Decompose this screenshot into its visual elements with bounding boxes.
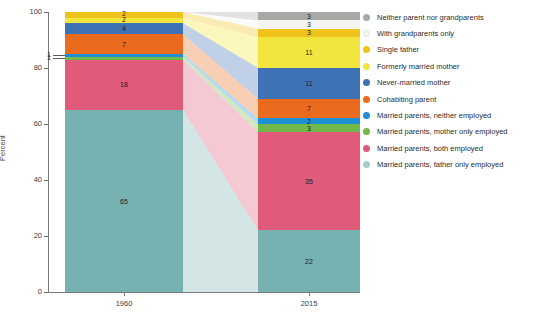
bar-segment[interactable]: 2 [65, 18, 183, 24]
y-tick-label: 60 [34, 119, 42, 128]
bar-segment[interactable]: 4 [65, 23, 183, 34]
bar-segment[interactable]: 65 [65, 110, 183, 292]
legend-swatch-icon [363, 63, 370, 70]
legend-item-label: Formerly married mother [377, 62, 460, 71]
legend-swatch-icon [363, 46, 370, 53]
flow-ribbon [183, 34, 258, 118]
y-tick-label: 100 [29, 7, 42, 16]
legend-item[interactable]: Single father [363, 42, 547, 58]
y-tick-mark [44, 68, 48, 69]
bar-2015[interactable]: 22353271111333 [258, 12, 360, 292]
x-tick-mark [309, 292, 310, 296]
bar-segment[interactable]: 3 [258, 12, 360, 20]
bar-segment-label: 3 [307, 13, 311, 20]
flow-ribbon [183, 57, 258, 133]
legend-swatch-icon [363, 30, 370, 37]
bar-segment-label: 22 [305, 258, 313, 265]
flow-ribbon [183, 60, 258, 231]
x-axis-line [48, 292, 360, 293]
x-tick-mark [124, 292, 125, 296]
bar-segment-label: 3 [307, 21, 311, 28]
legend-item-label: Single father [377, 45, 419, 54]
legend-swatch-icon [363, 145, 370, 152]
flow-ribbon [183, 54, 258, 124]
y-tick-mark [44, 236, 48, 237]
bar-segment[interactable]: 18 [65, 60, 183, 110]
bar-segment[interactable]: 11 [258, 37, 360, 68]
legend-item-label: Married parents, father only employed [377, 160, 503, 169]
segment-callout-line [53, 58, 65, 59]
flow-ribbon [183, 12, 258, 37]
bar-segment[interactable] [65, 54, 183, 57]
y-tick-label: 0 [38, 287, 42, 296]
bar-segment-label: 3 [307, 29, 311, 36]
y-tick-label: 80 [34, 63, 42, 72]
legend-item-label: Neither parent nor grandparents [377, 13, 484, 22]
bar-segment-label: 4 [122, 25, 126, 32]
legend-item[interactable]: With grandparents only [363, 25, 547, 41]
legend-item[interactable]: Formerly married mother [363, 58, 547, 74]
bar-segment[interactable]: 2 [258, 118, 360, 124]
bar-segment[interactable]: 11 [258, 68, 360, 99]
bar-segment[interactable]: 7 [65, 34, 183, 54]
segment-callout-label: 1 [47, 54, 51, 61]
y-tick-mark [44, 12, 48, 13]
flow-ribbon [183, 110, 258, 292]
legend-item[interactable]: Never-married mother [363, 75, 547, 91]
x-tick-label: 2015 [301, 299, 318, 308]
flow-ribbon [183, 12, 258, 20]
legend-item-label: Married parents, mother only employed [377, 127, 507, 136]
legend-item-label: Married parents, neither employed [377, 111, 491, 120]
legend-swatch-icon [363, 96, 370, 103]
bar-segment[interactable] [65, 57, 183, 60]
bar-segment-label: 18 [120, 81, 128, 88]
legend-item-label: Cohabiting parent [377, 95, 436, 104]
legend-swatch-icon [363, 112, 370, 119]
bar-1960[interactable]: 65187422 [65, 12, 183, 292]
legend-item-label: Never-married mother [377, 78, 450, 87]
flow-ribbon [183, 12, 258, 29]
segment-callout-line [53, 55, 65, 56]
legend-item[interactable]: Neither parent nor grandparents [363, 9, 547, 25]
bar-segment-label: 65 [120, 198, 128, 205]
bar-segment-label: 11 [305, 80, 313, 87]
flow-ribbon [183, 18, 258, 68]
x-tick-label: 1960 [116, 299, 133, 308]
bar-segment-label: 7 [307, 105, 311, 112]
y-tick-label: 40 [34, 175, 42, 184]
y-axis-ticks: 100806040200 [12, 0, 42, 326]
y-tick-mark [44, 180, 48, 181]
chart-legend: Neither parent nor grandparentsWith gran… [363, 9, 547, 173]
flow-ribbon [183, 23, 258, 99]
bar-segment[interactable]: 3 [258, 20, 360, 28]
bar-segment[interactable]: 35 [258, 132, 360, 230]
legend-swatch-icon [363, 79, 370, 86]
bar-segment[interactable]: 3 [258, 29, 360, 37]
legend-item[interactable]: Married parents, neither employed [363, 107, 547, 123]
y-tick-mark [44, 292, 48, 293]
bar-segment-label: 11 [305, 49, 313, 56]
bar-segment-label: 7 [122, 41, 126, 48]
y-tick-label: 20 [34, 231, 42, 240]
bar-segment-label: 35 [305, 178, 313, 185]
legend-item[interactable]: Married parents, both employed [363, 140, 547, 156]
legend-item-label: With grandparents only [377, 29, 454, 38]
bar-segment[interactable]: 3 [258, 124, 360, 132]
legend-item-label: Married parents, both employed [377, 144, 483, 153]
legend-item[interactable]: Cohabiting parent [363, 91, 547, 107]
legend-item[interactable]: Married parents, mother only employed [363, 124, 547, 140]
bar-segment[interactable]: 7 [258, 99, 360, 119]
legend-swatch-icon [363, 128, 370, 135]
stacked-bar-chart: Percent 100806040200 65187422 2235327111… [0, 0, 549, 326]
bar-segment-label: 2 [122, 10, 126, 17]
legend-swatch-icon [363, 161, 370, 168]
legend-item[interactable]: Married parents, father only employed [363, 157, 547, 173]
bar-segment-label: 3 [307, 125, 311, 132]
bar-segment[interactable]: 22 [258, 230, 360, 292]
legend-swatch-icon [363, 14, 370, 21]
bar-segment[interactable]: 2 [65, 12, 183, 18]
bar-segment-label: 2 [307, 118, 311, 125]
y-tick-mark [44, 124, 48, 125]
y-axis-label: Percent [0, 135, 7, 161]
